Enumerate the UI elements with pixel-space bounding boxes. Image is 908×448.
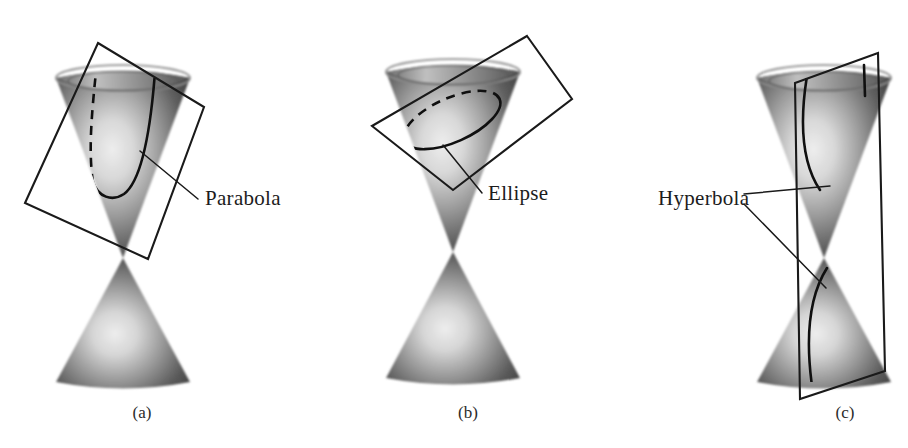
plane-rim-trace-c: [864, 65, 865, 96]
hyperbola-label: Hyperbola: [658, 186, 750, 210]
conic-sections-figure: Parabola (a) El: [0, 0, 908, 448]
lower-nappe-b: [386, 252, 520, 385]
double-cone-c: [757, 65, 891, 389]
panel-c-caption: (c): [836, 403, 855, 422]
figure-canvas: Parabola (a) El: [0, 0, 908, 448]
lower-nappe-c: [757, 258, 891, 389]
panel-a: Parabola (a): [25, 43, 281, 422]
panel-c: Hyperbola (c): [658, 53, 891, 422]
panel-b: Ellipse (b): [372, 36, 572, 422]
ellipse-label: Ellipse: [488, 181, 548, 205]
lower-nappe-a: [56, 258, 190, 389]
upper-nappe-c: [757, 71, 891, 258]
parabola-label: Parabola: [205, 186, 281, 210]
panel-b-caption: (b): [458, 403, 478, 422]
panel-a-caption: (a): [133, 403, 152, 422]
upper-nappe-b: [386, 65, 520, 252]
upper-nappe-a: [56, 71, 190, 258]
